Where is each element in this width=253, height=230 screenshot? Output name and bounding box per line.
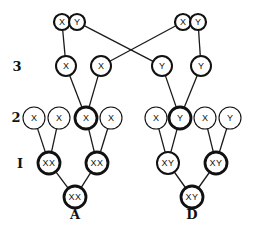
edge-line (165, 75, 176, 107)
node-g2g: X (194, 107, 216, 129)
generation-label-3: 3 (12, 59, 21, 74)
edge-line (184, 75, 197, 108)
chromosome-label: X (153, 113, 159, 123)
edge-line (174, 172, 185, 188)
chromosome-label: X (59, 17, 65, 27)
edge-line (208, 129, 214, 153)
node-g1d: XY (205, 152, 227, 174)
chromosome-label: Y (195, 17, 201, 27)
edge-line (171, 129, 177, 153)
node-g2h: Y (219, 107, 241, 129)
chromosome-label: Y (74, 17, 80, 27)
pair-right: XY (175, 14, 206, 30)
edge-line (159, 129, 165, 153)
node-g3d: Y (191, 56, 211, 76)
node-g3c: Y (152, 56, 172, 76)
edge-line (89, 76, 98, 108)
edge-line (81, 172, 91, 188)
chromosome-label: XX (68, 192, 81, 202)
node-g3b: X (91, 56, 111, 76)
edge-line (70, 75, 83, 107)
chromosome-label: Y (227, 113, 233, 123)
subject-label-A: A (69, 207, 81, 222)
edge-line (56, 172, 69, 189)
chromosome-label: Y (177, 113, 183, 123)
edge-line (100, 129, 107, 153)
chromosome-label: XY (209, 158, 222, 168)
chromosome-label: X (202, 113, 208, 123)
edge-line (38, 128, 46, 152)
edges (38, 25, 227, 188)
edge-line (199, 29, 201, 56)
edge-line (219, 129, 226, 153)
generation-label-1: I (17, 156, 23, 171)
subject-label-D: D (186, 207, 197, 222)
chromosome-label: X (83, 113, 89, 123)
node-g2d: X (100, 107, 122, 129)
chromosome-label: XX (90, 158, 103, 168)
generation-label-2: 2 (11, 110, 20, 125)
grandparent-pairs: XYXY (54, 14, 206, 30)
node-g2f: Y (169, 107, 191, 129)
chromosome-label: X (63, 61, 69, 71)
node-g3a: X (56, 56, 76, 76)
chromosome-label: Y (159, 61, 165, 71)
node-g2c: X (75, 107, 97, 129)
pedigree-diagram: XYXY XXYYXXXXXYXYXXXXXYXYXXXY 32IAD (0, 0, 253, 230)
edge-line (198, 172, 209, 188)
node-g1b: XX (86, 152, 108, 174)
pair-left: XY (54, 14, 85, 30)
chromosome-label: X (180, 17, 186, 27)
node-g1c: XY (157, 152, 179, 174)
node-g2b: X (48, 107, 70, 129)
chromosome-label: XY (161, 158, 174, 168)
chromosome-label: Y (198, 61, 204, 71)
edge-line (63, 29, 66, 56)
node-subjA: XX (64, 186, 86, 208)
node-subjD: XY (181, 186, 203, 208)
edge-line (51, 129, 56, 153)
chromosome-label: XX (42, 158, 55, 168)
chromosome-label: X (31, 113, 37, 123)
edge-line (89, 129, 95, 153)
node-g2e: X (145, 107, 167, 129)
chromosome-label: XY (185, 192, 198, 202)
chromosome-label: X (98, 61, 104, 71)
chromosome-label: X (108, 113, 114, 123)
chromosome-label: X (56, 113, 62, 123)
node-g2a: X (23, 107, 45, 129)
node-g1a: XX (38, 152, 60, 174)
